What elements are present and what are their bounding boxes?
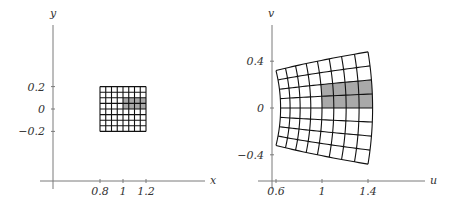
- right-mapped-grid: [276, 52, 373, 164]
- y-tick-label: 0.2: [28, 81, 46, 94]
- y-tick-label: 0: [38, 103, 45, 116]
- x-tick-label: 0.6: [267, 185, 285, 198]
- y-tick-labels: 0.20−0.2: [18, 81, 55, 139]
- y-tick-label: −0.2: [18, 125, 45, 138]
- y-tick-label: 0: [257, 102, 264, 115]
- right-plot: v u 0.611.4 0.40−0.4: [237, 7, 437, 198]
- x-tick-labels: 0.811.2: [91, 179, 155, 198]
- u-axis-label: u: [430, 174, 437, 187]
- left-square-grid: [100, 87, 146, 132]
- y-axis-label: y: [49, 7, 57, 20]
- v-axis-label: v: [268, 7, 275, 20]
- x-tick-label: 1: [319, 185, 326, 198]
- x-tick-label: 1: [120, 185, 127, 198]
- y-tick-label: −0.4: [237, 149, 264, 162]
- x-tick-label: 1.2: [137, 185, 155, 198]
- u-tick-labels: 0.611.4: [267, 179, 377, 198]
- v-tick-labels: 0.40−0.4: [237, 55, 274, 162]
- left-plot: y x 0.811.2 0.20−0.2: [18, 7, 217, 198]
- x-axis-label: x: [210, 174, 217, 187]
- mapping-figure: y x 0.811.2 0.20−0.2 v u 0.611.4 0.40−0.…: [0, 0, 454, 205]
- y-tick-label: 0.4: [247, 55, 265, 68]
- x-tick-label: 1.4: [359, 185, 377, 198]
- x-tick-label: 0.8: [91, 185, 109, 198]
